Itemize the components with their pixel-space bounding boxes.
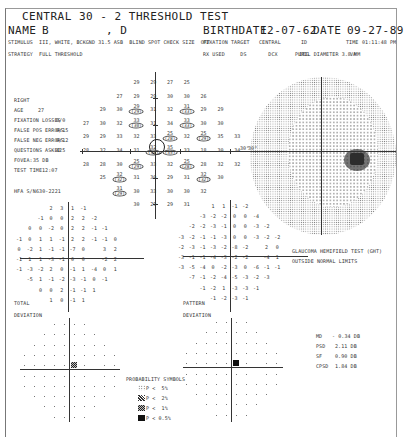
normal-point-dot [246, 404, 247, 405]
normal-point-dot [206, 353, 207, 354]
normal-point-dot [206, 363, 207, 364]
total-dev-value: 0 [28, 236, 31, 241]
pattern-deviation-label: DEVIATION [183, 312, 211, 318]
normal-point-dot [84, 355, 85, 356]
retest-value: (33) [179, 109, 194, 115]
normal-point-dot [256, 343, 257, 344]
pattern-dev-value: -1 [242, 295, 248, 300]
date-label: DATE [313, 24, 342, 37]
normal-point-dot [84, 406, 85, 407]
va-label: VA [350, 51, 356, 57]
normal-point-dot [104, 355, 105, 356]
pattern-dev-value: -1 [199, 275, 205, 280]
threshold-value: 25 [100, 175, 106, 180]
total-dev-value: 0 [71, 257, 74, 262]
pattern-dev-value: -1 [231, 204, 237, 209]
total-dev-value: -5 [27, 277, 33, 282]
normal-point-dot [206, 374, 207, 375]
total-prob-y-axis [69, 318, 70, 422]
legend-p05: P < 0.5% [146, 415, 171, 421]
total-dev-value: -1 [69, 267, 75, 272]
normal-point-dot [104, 345, 105, 346]
dense-checker-icon [71, 362, 77, 368]
total-dev-value: 2 [71, 216, 74, 221]
pattern-dev-value: -2 [199, 224, 205, 229]
legend-p5: P < 5% [146, 385, 168, 391]
pattern-dev-value: -2 [253, 275, 259, 280]
normal-point-dot [44, 406, 45, 407]
normal-point-dot [276, 363, 277, 364]
total-dev-value: 2 [71, 226, 74, 231]
eye-label: RIGHT [14, 97, 30, 103]
total-dev-value: 0 [39, 287, 42, 292]
pattern-dev-value: -3 [242, 275, 248, 280]
threshold-value: 31 [150, 120, 156, 125]
normal-point-dot [236, 404, 237, 405]
normal-point-dot [196, 343, 197, 344]
normal-point-dot [196, 374, 197, 375]
threshold-value: 28 [201, 161, 207, 166]
pattern-dev-value: -3 [178, 255, 184, 260]
retest-value: (33) [179, 122, 194, 128]
pattern-dev-value: -3 [210, 244, 216, 249]
normal-point-dot [196, 394, 197, 395]
normal-point-dot [226, 332, 227, 333]
normal-point-dot [276, 353, 277, 354]
total-dev-value: 0 [60, 226, 63, 231]
normal-point-dot [206, 384, 207, 385]
normal-point-dot [84, 334, 85, 335]
normal-point-dot [276, 374, 277, 375]
threshold-value: 30 [184, 93, 190, 98]
normal-point-dot [256, 394, 257, 395]
normal-point-dot [44, 376, 45, 377]
normal-point-dot [186, 384, 187, 385]
normal-point-dot [94, 345, 95, 346]
normal-point-dot [54, 334, 55, 335]
normal-point-dot [226, 384, 227, 385]
total-dev-value: -4 [91, 267, 97, 272]
ght-title: GLAUCOMA HEMIFIELD TEST (GHT) [292, 248, 382, 254]
pattern-dev-value: 0 [244, 265, 247, 270]
total-dev-value: 2 [60, 287, 63, 292]
normal-point-dot [196, 353, 197, 354]
retest-value: (30) [129, 122, 144, 128]
normal-point-dot [206, 343, 207, 344]
normal-point-dot [246, 332, 247, 333]
normal-point-dot [74, 324, 75, 325]
pattern-dev-value: -2 [210, 214, 216, 219]
total-dev-value: 0 [92, 277, 95, 282]
pattern-dev-value: -3 [242, 285, 248, 290]
pattern-dev-value: -1 [210, 295, 216, 300]
total-dev-value: -1 [16, 236, 22, 241]
retest-value: (32) [196, 177, 211, 183]
total-dev-value: 1 [39, 257, 42, 262]
normal-point-dot [54, 406, 55, 407]
normal-point-dot [104, 365, 105, 366]
normal-point-dot [44, 365, 45, 366]
normal-point-dot [54, 324, 55, 325]
pattern-prob-y-axis [231, 318, 232, 422]
date-value: 09-27-89 [347, 24, 404, 37]
retest-value: (35) [163, 150, 178, 156]
threshold-value: 29 [133, 93, 139, 98]
threshold-value: 29 [201, 107, 207, 112]
threshold-value: 32 [100, 148, 106, 153]
threshold-value: 33 [117, 134, 123, 139]
normal-point-dot [236, 394, 237, 395]
normal-point-dot [64, 406, 65, 407]
normal-point-dot [64, 386, 65, 387]
normal-point-dot [246, 363, 247, 364]
normal-point-dot [74, 417, 75, 418]
psd-value: 2.11 DB [335, 343, 357, 349]
normal-point-dot [54, 386, 55, 387]
normal-point-dot [64, 365, 65, 366]
normal-point-dot [74, 345, 75, 346]
pattern-dev-value: -3 [231, 285, 237, 290]
pattern-dev-value: -1 [264, 265, 270, 270]
total-dev-value: 1 [39, 246, 42, 251]
threshold-value: 25(29) [196, 131, 211, 142]
threshold-value: 30 [167, 188, 173, 193]
threshold-value: 30 [217, 120, 223, 125]
normal-point-dot [226, 343, 227, 344]
pattern-dev-value: 0 [244, 234, 247, 239]
